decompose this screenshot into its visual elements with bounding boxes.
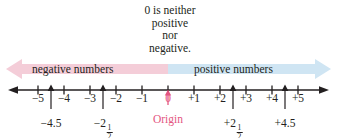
zero-caption-line-3: nor <box>108 29 232 42</box>
pointer-origin <box>165 90 171 106</box>
mixed-fraction-one-half: 12 <box>106 124 112 138</box>
callout-plus-two-and-a-half: +212 <box>224 117 243 138</box>
mixed-fraction-one-half: 12 <box>236 124 242 138</box>
pointer-plus-two-and-a-half <box>230 85 237 110</box>
fraction-denominator: 2 <box>236 133 242 138</box>
zero-caption: 0 is neither positive nor negative. <box>108 4 232 54</box>
callout-plus-two-and-a-half-whole: +2 <box>224 117 236 129</box>
pointer-minus-four-point-five <box>48 85 55 110</box>
negative-numbers-label: negative numbers <box>32 62 113 76</box>
pointer-minus-two-and-a-half <box>100 85 107 110</box>
fraction-denominator: 2 <box>106 133 112 138</box>
zero-caption-line-1: 0 is neither <box>108 4 232 17</box>
callout-minus-two-and-a-half-whole: −2 <box>94 117 106 129</box>
zero-caption-line-2: positive <box>108 17 232 30</box>
positive-numbers-label: positive numbers <box>194 62 273 76</box>
number-line-figure: 0 is neither positive nor negative. nega… <box>0 0 337 138</box>
callout-origin: Origin <box>153 113 183 126</box>
callout-minus-two-and-a-half: −212 <box>94 117 113 138</box>
zero-caption-line-4: negative. <box>108 42 232 55</box>
callout-plus-four-point-five: +4.5 <box>275 117 296 130</box>
pointer-plus-four-point-five <box>282 85 289 110</box>
callout-minus-four-point-five: −4.5 <box>41 117 62 130</box>
